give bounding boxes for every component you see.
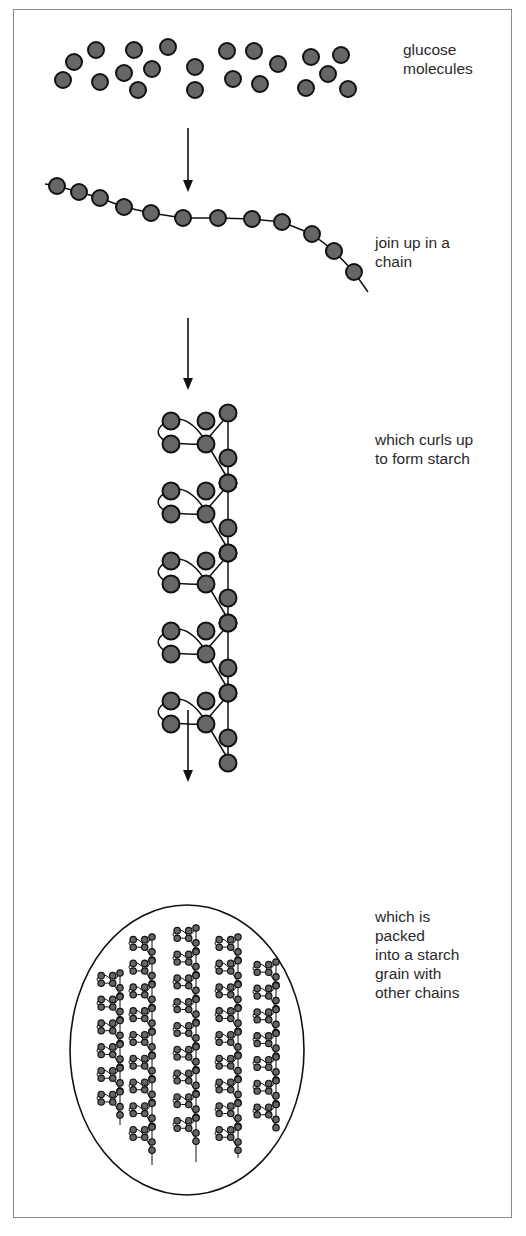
- glucose-molecule-icon: [266, 985, 272, 991]
- glucose-molecule-icon: [186, 975, 192, 981]
- glucose-molecule-icon: [160, 39, 176, 55]
- glucose-molecule-icon: [266, 1088, 272, 1094]
- glucose-molecule-icon: [186, 1118, 192, 1124]
- glucose-molecule-icon: [216, 968, 222, 974]
- glucose-molecule-icon: [110, 972, 116, 978]
- glucose-molecule-icon: [142, 1134, 148, 1140]
- glucose-molecule-icon: [228, 1039, 234, 1045]
- glucose-molecule-icon: [225, 71, 241, 87]
- glucose-molecule-icon: [117, 1032, 123, 1038]
- glucose-molecule-icon: [210, 210, 226, 226]
- glucose-molecule-icon: [235, 972, 241, 978]
- glucose-molecule-icon: [98, 980, 104, 986]
- glucose-molecule-icon: [110, 1075, 116, 1081]
- glucose-molecule-icon: [130, 1134, 136, 1140]
- glucose-molecule-icon: [174, 959, 180, 965]
- glucose-molecule-icon: [216, 1063, 222, 1069]
- glucose-molecule-icon: [193, 1138, 199, 1144]
- glucose-molecule-icon: [186, 951, 192, 957]
- glucose-molecule-icon: [193, 1082, 199, 1088]
- glucose-molecule-icon: [273, 1054, 279, 1060]
- glucose-molecule-icon: [174, 1078, 180, 1084]
- glucose-molecule-icon: [235, 1100, 241, 1106]
- glucose-molecule-icon: [333, 47, 349, 63]
- glucose-molecule-icon: [266, 1056, 272, 1062]
- glucose-molecule-icon: [186, 1101, 192, 1107]
- glucose-molecule-icon: [98, 972, 104, 978]
- starch-chain-column: [173, 925, 199, 1162]
- glucose-molecule-icon: [228, 936, 234, 942]
- glucose-molecule-icon: [186, 959, 192, 965]
- glucose-molecule-icon: [266, 969, 272, 975]
- glucose-molecule-icon: [174, 975, 180, 981]
- glucose-molecule-icon: [92, 74, 108, 90]
- glucose-molecule-icon: [49, 178, 65, 194]
- glucose-molecule-icon: [142, 1015, 148, 1021]
- glucose-molecule-icon: [273, 1021, 279, 1027]
- glucose-molecule-icon: [216, 944, 222, 950]
- glucose-molecule-icon: [117, 1008, 123, 1014]
- glucose-molecule-icon: [130, 1110, 136, 1116]
- glucose-molecule-icon: [174, 951, 180, 957]
- glucose-molecule-icon: [116, 65, 132, 81]
- glucose-molecule-icon: [142, 1008, 148, 1014]
- glucose-molecule-icon: [254, 993, 260, 999]
- glucose-molecule-icon: [273, 1030, 279, 1036]
- glucose-molecule-icon: [163, 506, 180, 523]
- starch-chain-column: [97, 970, 123, 1125]
- glucose-molecule-icon: [116, 199, 132, 215]
- glucose-molecule-icon: [110, 1020, 116, 1026]
- glucose-molecule-icon: [163, 413, 180, 430]
- glucose-molecule-icon: [117, 1017, 123, 1023]
- glucose-molecule-icon: [254, 1009, 260, 1015]
- glucose-molecule-icon: [88, 42, 104, 58]
- glucose-molecule-icon: [117, 1103, 123, 1109]
- glucose-molecule-icon: [98, 1004, 104, 1010]
- glucose-molecule-icon: [219, 43, 235, 59]
- glucose-molecule-icon: [117, 1065, 123, 1071]
- glucose-molecule-icon: [186, 1078, 192, 1084]
- glucose-molecule-icon: [174, 1054, 180, 1060]
- glucose-molecule-icon: [228, 1015, 234, 1021]
- glucose-molecule-icon: [130, 960, 136, 966]
- glucose-molecule-icon: [273, 1124, 279, 1130]
- glucose-molecule-icon: [254, 1017, 260, 1023]
- glucose-molecule-icon: [110, 1004, 116, 1010]
- glucose-molecule-icon: [198, 576, 215, 593]
- glucose-molecule-icon: [266, 1064, 272, 1070]
- glucose-molecule-icon: [186, 1054, 192, 1060]
- glucose-molecule-icon: [174, 1125, 180, 1131]
- glucose-molecule-icon: [163, 576, 180, 593]
- starch-chain-column: [129, 934, 155, 1165]
- glucose-molecule-icon: [110, 1067, 116, 1073]
- glucose-molecule-icon: [193, 1044, 199, 1050]
- glucose-molecule-icon: [273, 959, 279, 965]
- glucose-molecule-icon: [228, 1110, 234, 1116]
- glucose-molecule-icon: [174, 927, 180, 933]
- glucose-molecule-icon: [186, 999, 192, 1005]
- glucose-molecule-icon: [149, 1100, 155, 1106]
- glucose-molecule-icon: [216, 1087, 222, 1093]
- glucose-molecule-icon: [163, 436, 180, 453]
- glucose-molecule-icon: [149, 949, 155, 955]
- glucose-molecule-icon: [228, 1103, 234, 1109]
- glucose-molecule-icon: [235, 949, 241, 955]
- glucose-molecule-icon: [254, 1112, 260, 1118]
- glucose-molecule-icon: [216, 1127, 222, 1133]
- glucose-molecule-icon: [142, 936, 148, 942]
- glucose-molecule-icon: [149, 996, 155, 1002]
- glucose-molecule-icon: [228, 1079, 234, 1085]
- glucose-molecule-icon: [149, 1124, 155, 1130]
- glucose-molecule-icon: [274, 214, 290, 230]
- glucose-molecule-icon: [130, 992, 136, 998]
- glucose-molecule-icon: [142, 1055, 148, 1061]
- label-glucose-molecules: glucose molecules: [403, 40, 473, 78]
- glucose-molecule-icon: [149, 1076, 155, 1082]
- glucose-molecule-icon: [270, 56, 286, 72]
- glucose-molecule-icon: [254, 1088, 260, 1094]
- glucose-molecule-icon: [266, 1080, 272, 1086]
- glucose-molecule-icon: [130, 1015, 136, 1021]
- glucose-molecule-icon: [174, 1006, 180, 1012]
- glucose-molecule-icon: [216, 1015, 222, 1021]
- glucose-molecule-icon: [130, 944, 136, 950]
